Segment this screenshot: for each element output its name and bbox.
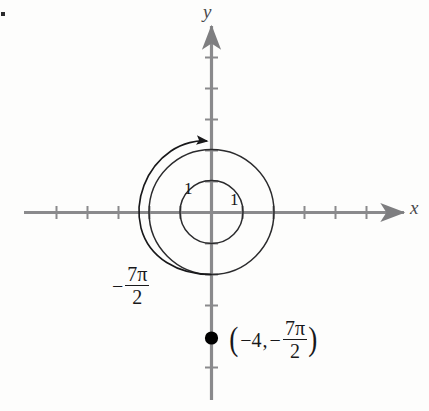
angle-numerator: 7π [125, 264, 149, 286]
close-paren: ) [308, 326, 317, 353]
angle-sign: − [112, 276, 123, 296]
angle-denominator: 2 [130, 286, 144, 307]
coordinate-comma: , [263, 330, 268, 350]
corner-artifact-mark [1, 12, 5, 16]
point-angle-denominator: 2 [288, 340, 302, 361]
point-coordinate-annotation: ( −4 , − 7π 2 ) [228, 318, 318, 361]
open-paren: ( [229, 326, 238, 353]
angle-annotation: − 7π 2 [112, 264, 149, 307]
x-unit-label: 1 [230, 191, 239, 208]
plotted-point-marker[interactable] [205, 331, 218, 344]
figure-canvas: y x 1 1 − 7π 2 ( −4 , − 7π 2 ) [0, 0, 429, 411]
y-unit-label: 1 [184, 180, 193, 197]
angle-fraction: 7π 2 [125, 264, 149, 307]
point-angle-numerator: 7π [283, 318, 307, 340]
point-angle-sign: − [270, 330, 281, 350]
y-axis-label: y [203, 2, 211, 21]
point-radius-value: −4 [240, 330, 261, 350]
point-angle-fraction: 7π 2 [283, 318, 307, 361]
x-axis-label: x [410, 198, 418, 217]
polar-diagram-svg [0, 0, 429, 411]
